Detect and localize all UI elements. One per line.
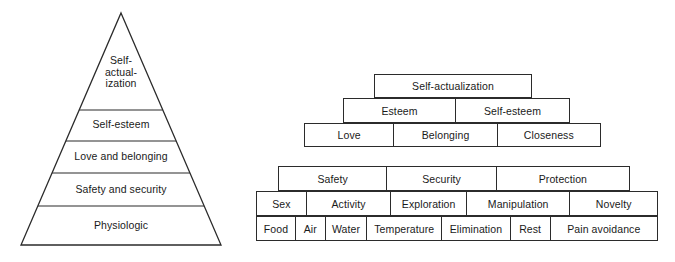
block-cell-esteem: Esteem — [344, 99, 456, 122]
block-cell-manipulation: Manipulation — [467, 192, 570, 215]
block-cell-food: Food — [257, 217, 296, 240]
block-row-self-actualization: Self-actualization — [374, 74, 532, 98]
block-cell-love: Love — [305, 124, 394, 146]
block-cell-air: Air — [296, 217, 326, 240]
block-cell-pain-avoidance: Pain avoidance — [551, 217, 657, 240]
maslow-hierarchy-figure: Self- actual- ization Self-esteem Love a… — [0, 0, 675, 262]
block-cell-safety: Safety — [279, 167, 387, 190]
block-cell-activity: Activity — [307, 192, 392, 215]
block-cell-novelty: Novelty — [570, 192, 657, 215]
block-cell-sex: Sex — [257, 192, 307, 215]
block-row-love: Love Belonging Closeness — [304, 123, 601, 147]
block-cell-rest: Rest — [511, 217, 551, 240]
block-row-physiologic: Food Air Water Temperature Elimination R… — [256, 216, 658, 241]
block-cell-belonging: Belonging — [394, 124, 497, 146]
block-cell-self-actualization: Self-actualization — [375, 75, 531, 97]
block-cell-exploration: Exploration — [391, 192, 467, 215]
block-cell-elimination: Elimination — [442, 217, 511, 240]
block-cell-temperature: Temperature — [367, 217, 442, 240]
block-cell-protection: Protection — [497, 167, 629, 190]
block-cell-self-esteem: Self-esteem — [456, 99, 569, 122]
block-row-stimulation: Sex Activity Exploration Manipulation No… — [256, 191, 658, 216]
block-cell-closeness: Closeness — [498, 124, 600, 146]
right-stepped-pyramid: Self-actualization Esteem Self-esteem Lo… — [0, 0, 675, 262]
block-cell-water: Water — [326, 217, 368, 240]
block-row-safety: Safety Security Protection — [278, 166, 630, 191]
block-row-esteem: Esteem Self-esteem — [343, 98, 570, 123]
block-cell-security: Security — [387, 167, 496, 190]
